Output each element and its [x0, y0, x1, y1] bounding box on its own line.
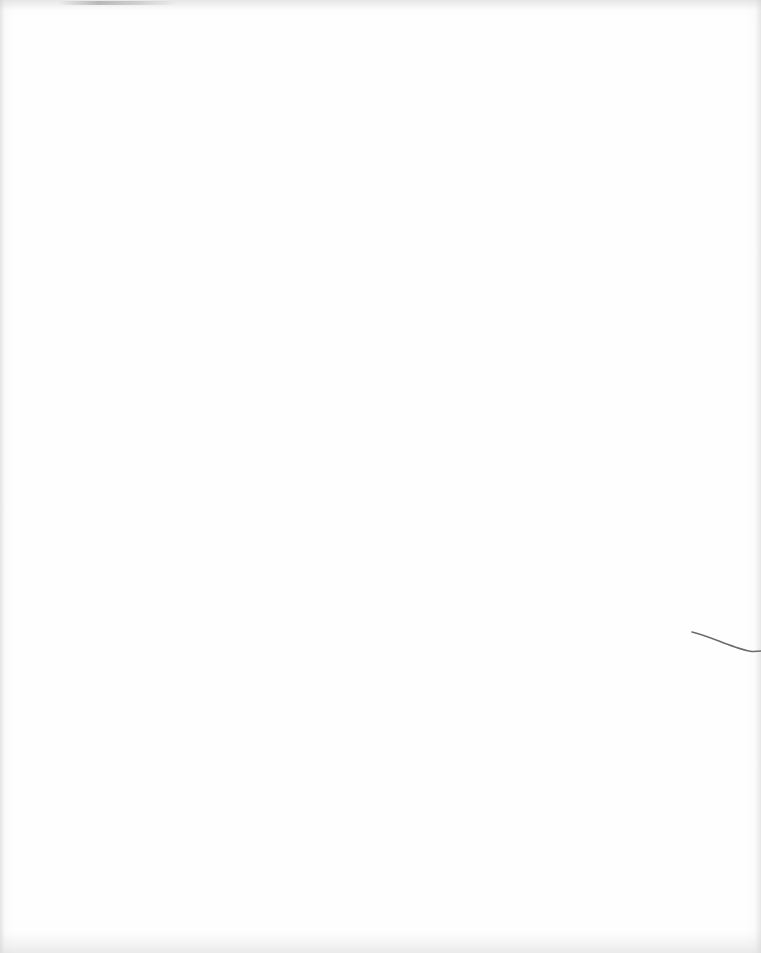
blank-page	[0, 0, 761, 953]
scan-bottom-edge-shadow	[0, 931, 761, 953]
scan-left-edge-shadow	[0, 0, 5, 953]
scan-right-edge-shadow	[755, 0, 761, 953]
scan-smudge	[58, 1, 178, 5]
hair-stroke-icon	[690, 628, 761, 658]
